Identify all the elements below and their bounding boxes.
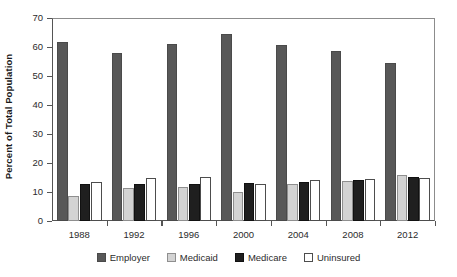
- x-axis-tick-label-2000: 2000: [233, 229, 254, 240]
- x-axis-tick-mark: [326, 221, 327, 226]
- x-axis-tick-label-1988: 1988: [69, 229, 90, 240]
- x-axis-tick-label-2012: 2012: [397, 229, 418, 240]
- y-axis-tick-label: 30: [32, 128, 43, 139]
- y-axis-title: Percent of Total Population: [0, 0, 18, 232]
- y-axis-tick-label: 50: [32, 70, 43, 81]
- x-axis-tick-mark: [107, 221, 108, 226]
- x-axis-tick-label-2008: 2008: [342, 229, 363, 240]
- x-axis-tick-label-1992: 1992: [123, 229, 144, 240]
- legend-item-employer[interactable]: Employer: [97, 252, 150, 263]
- plot-area: [52, 18, 435, 221]
- y-axis-tick-label: 70: [32, 12, 43, 23]
- y-axis-tick-label: 10: [32, 186, 43, 197]
- bar-chart: Percent of Total Population 010203040506…: [0, 0, 457, 277]
- y-axis-title-text: Percent of Total Population: [4, 53, 15, 179]
- legend-swatch-employer-icon: [97, 253, 106, 262]
- legend-item-medicaid[interactable]: Medicaid: [167, 252, 218, 263]
- y-axis-tick-label: 0: [38, 215, 43, 226]
- x-axis-tick-mark: [435, 221, 436, 226]
- x-axis-tick-label-2004: 2004: [288, 229, 309, 240]
- legend-label-uninsured: Uninsured: [317, 252, 360, 263]
- y-axis-tick-label: 40: [32, 99, 43, 110]
- legend-label-medicare: Medicare: [248, 252, 287, 263]
- x-axis-tick-mark: [380, 221, 381, 226]
- x-axis-tick-mark: [216, 221, 217, 226]
- legend-item-medicare[interactable]: Medicare: [235, 252, 287, 263]
- y-axis-tick-label: 60: [32, 41, 43, 52]
- chart-legend: EmployerMedicaidMedicareUninsured: [0, 252, 457, 263]
- x-axis-tick-mark: [161, 221, 162, 226]
- legend-item-uninsured[interactable]: Uninsured: [304, 252, 360, 263]
- legend-swatch-medicare-icon: [235, 253, 244, 262]
- x-axis: 1988199219962000200420082012: [52, 221, 435, 247]
- legend-label-medicaid: Medicaid: [180, 252, 218, 263]
- y-axis-tick-label: 20: [32, 157, 43, 168]
- x-axis-tick-label-1996: 1996: [178, 229, 199, 240]
- legend-swatch-medicaid-icon: [167, 253, 176, 262]
- legend-swatch-uninsured-icon: [304, 253, 313, 262]
- legend-label-employer: Employer: [110, 252, 150, 263]
- x-axis-tick-mark: [271, 221, 272, 226]
